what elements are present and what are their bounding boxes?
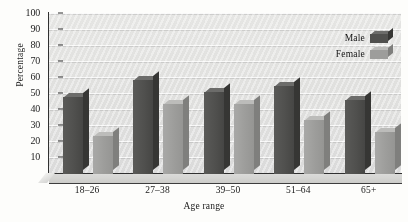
bar-side-face [183,95,189,170]
y-axis-tick-label: 80 [30,40,40,50]
bar-male [133,80,153,174]
y-axis-tick-label: 10 [30,152,40,162]
chart-floor [49,174,402,184]
legend-item-female: Female [296,46,392,62]
bar-female [234,104,254,174]
bar-side-face [113,127,119,170]
bar-front-face [274,86,294,174]
bar-group [49,13,119,174]
y-axis-tick-label: 100 [26,8,40,18]
bar-female [93,136,113,174]
x-axis-tick-label: 65+ [361,185,376,195]
bar-group [190,13,260,174]
bar-male [63,97,83,174]
bar-male [274,86,294,174]
bar-front-face [345,100,365,174]
x-axis-tick-label: 39–50 [216,185,241,195]
legend-swatch-female [370,50,392,59]
bar-front-face [133,80,153,174]
bar-side-face [224,84,230,170]
bar-front-face [204,92,224,174]
y-axis-tick-label: 70 [30,56,40,66]
bar-side-face [294,77,300,170]
bar-front-face [163,104,183,174]
bar-female [163,104,183,174]
x-axis-tick-label: 18–26 [75,185,100,195]
y-axis-tick-label: 40 [30,104,40,114]
x-axis-title: Age range [0,201,408,211]
bar-side-face [365,92,371,170]
y-axis-tick-label: 30 [30,120,40,130]
bar-side-face [83,89,89,170]
y-axis-tick-label: 90 [30,24,40,34]
bar-side-face [254,95,260,170]
bar-side-face [153,71,159,170]
x-axis-tick-label: 27–38 [145,185,170,195]
swatch-front-face [370,50,388,59]
bar-front-face [63,97,83,174]
swatch-front-face [370,34,388,43]
y-axis-tick-labels: 102030405060708090100 [14,0,40,222]
bar-front-face [375,132,395,174]
x-axis-tick-labels: 18–2627–3839–5051–6465+ [49,185,401,199]
bar-male [204,92,224,174]
x-axis-tick-label: 51–64 [286,185,311,195]
bar-side-face [324,111,330,170]
y-axis-tick-label: 20 [30,136,40,146]
legend-label: Male [345,33,365,43]
legend-label: Female [336,49,365,59]
legend-swatch-male [370,34,392,43]
y-axis-tick-label: 60 [30,72,40,82]
bar-female [304,120,324,174]
bar-front-face [234,104,254,174]
y-axis-tick-label: 50 [30,88,40,98]
bar-chart: Percentage 102030405060708090100 18–2627… [0,0,408,222]
legend: MaleFemale [296,30,392,62]
bar-front-face [304,120,324,174]
bar-side-face [395,124,401,170]
legend-item-male: Male [296,30,392,46]
bar-female [375,132,395,174]
bar-male [345,100,365,174]
bar-group [119,13,189,174]
bar-front-face [93,136,113,174]
